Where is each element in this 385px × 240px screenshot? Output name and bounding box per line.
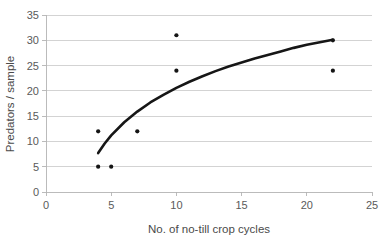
y-tick-label-25: 25 xyxy=(27,60,39,72)
x-tick-label-25: 25 xyxy=(366,199,378,211)
x-tick-label-20: 20 xyxy=(301,199,313,211)
gridlines-group xyxy=(46,15,372,167)
y-tick-label-0: 0 xyxy=(33,186,39,198)
chart-container: 05101520253035 0510152025 No. of no-till… xyxy=(0,0,385,240)
data-point xyxy=(331,38,335,42)
y-axis-tick-labels: 05101520253035 xyxy=(27,9,39,198)
data-point xyxy=(174,69,178,73)
data-point xyxy=(174,33,178,37)
y-tick-label-35: 35 xyxy=(27,9,39,21)
data-point xyxy=(109,165,113,169)
y-tick-label-5: 5 xyxy=(33,161,39,173)
y-tick-label-15: 15 xyxy=(27,110,39,122)
chart-canvas: 05101520253035 0510152025 No. of no-till… xyxy=(0,0,385,240)
x-tick-label-15: 15 xyxy=(235,199,247,211)
data-points-group xyxy=(96,33,335,169)
x-axis-tick-labels: 0510152025 xyxy=(43,199,378,211)
x-tick-label-10: 10 xyxy=(170,199,182,211)
data-point xyxy=(96,129,100,133)
y-tick-label-30: 30 xyxy=(27,34,39,46)
logarithmic-trend-curve xyxy=(98,40,333,153)
y-axis-title: Predators / sample xyxy=(4,56,16,153)
data-point xyxy=(331,69,335,73)
x-axis-title: No. of no-till crop cycles xyxy=(148,223,270,235)
x-tick-label-0: 0 xyxy=(43,199,49,211)
x-tick-label-5: 5 xyxy=(108,199,114,211)
y-tick-label-10: 10 xyxy=(27,135,39,147)
y-tick-label-20: 20 xyxy=(27,85,39,97)
data-point xyxy=(96,165,100,169)
trend-line-group xyxy=(98,40,333,153)
data-point xyxy=(135,129,139,133)
